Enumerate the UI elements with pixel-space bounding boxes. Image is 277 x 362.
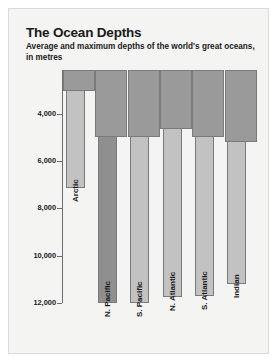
bar-average-depth xyxy=(95,70,127,137)
y-axis-tick-label: 4,000 xyxy=(18,109,56,118)
y-axis-tick-label: 6,000 xyxy=(18,156,56,165)
category-label: N. Pacific xyxy=(103,281,112,317)
category-label: N. Atlantic xyxy=(168,272,177,311)
y-axis-tick xyxy=(57,114,62,115)
category-label: S. Pacific xyxy=(135,281,144,317)
y-axis-tick-label: 10,000 xyxy=(18,251,56,260)
y-axis-tick-label: 8,000 xyxy=(18,203,56,212)
bar-average-depth xyxy=(225,70,257,142)
y-axis-line xyxy=(62,70,63,303)
y-axis-tick-label: 12,000 xyxy=(18,298,56,307)
y-axis-tick xyxy=(57,161,62,162)
ocean-depth-chart: 4,0006,0008,00010,00012,000ArcticN. Paci… xyxy=(0,0,277,362)
category-label: Indian xyxy=(232,274,241,298)
bar-average-depth xyxy=(192,70,224,137)
y-axis-tick xyxy=(57,208,62,209)
y-axis-tick xyxy=(57,303,62,304)
bar-average-depth xyxy=(160,70,192,129)
category-label: Arctic xyxy=(71,179,80,202)
y-axis-tick xyxy=(57,256,62,257)
category-label: S. Atlantic xyxy=(200,271,209,310)
bar-average-depth xyxy=(63,70,95,91)
bar-average-depth xyxy=(128,70,160,137)
